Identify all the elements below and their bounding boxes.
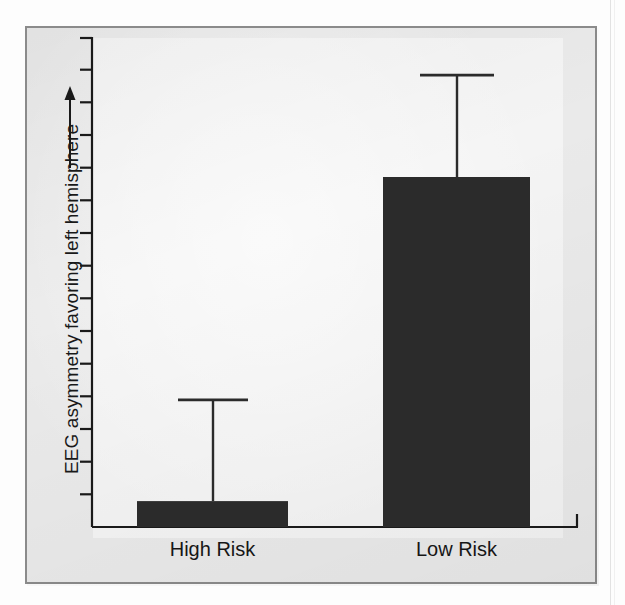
x-axis-category-label-low-risk: Low Risk [383, 538, 530, 561]
plot-background [93, 38, 563, 538]
y-axis-label-text: EEG asymmetry favoring left hemisphere [61, 99, 83, 499]
page-edge-rule [610, 0, 611, 605]
figure-frame [25, 26, 597, 584]
page-edge-rule-two [614, 0, 615, 605]
page-canvas: EEG asymmetry favoring left hemisphere H… [0, 0, 625, 605]
y-axis-label: EEG asymmetry favoring left hemisphere [30, 110, 70, 510]
x-axis-category-label-high-risk: High Risk [137, 538, 288, 561]
